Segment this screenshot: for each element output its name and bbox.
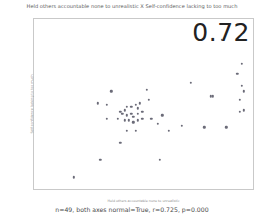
statistics-caption: n=49, both axes normal=True, r=0.725, p=…: [0, 205, 264, 214]
correlation-annotation: 0.72: [192, 20, 250, 45]
scatter-point: [141, 111, 143, 113]
x-axis-tick-mark: [67, 18, 68, 19]
scatter-point: [130, 106, 132, 108]
scatter-point: [146, 88, 148, 90]
scatter-point: [159, 159, 161, 161]
scatter-point: [161, 114, 163, 116]
scatter-point: [141, 118, 143, 120]
scatter-point: [137, 107, 139, 109]
scatter-point: [132, 116, 134, 118]
scatter-point: [126, 114, 128, 116]
scatter-point: [243, 90, 245, 92]
x-axis-label: Held others accountable none to unrealis…: [33, 199, 254, 203]
scatter-point: [181, 124, 183, 126]
y-axis-tick-mark: [33, 27, 34, 28]
scatter-point: [137, 112, 139, 114]
plot-area: 2040608010020406080100 0.72: [33, 18, 254, 190]
scatter-chart-figure: Held others accountable none to unrealis…: [0, 0, 264, 218]
chart-title: Held others accountable none to unrealis…: [0, 3, 264, 10]
scatter-point: [123, 119, 125, 121]
scatter-point: [117, 118, 119, 120]
scatter-point: [238, 111, 240, 113]
scatter-point: [168, 130, 170, 132]
scatter-point: [139, 102, 141, 104]
scatter-point: [110, 90, 112, 92]
scatter-point: [241, 63, 243, 65]
scatter-point: [241, 85, 243, 87]
scatter-point: [148, 99, 150, 101]
scatter-point: [243, 109, 245, 111]
scatter-point: [137, 119, 139, 121]
scatter-point: [119, 142, 121, 144]
scatter-point: [106, 104, 108, 106]
scatter-point: [212, 95, 214, 97]
scatter-point: [121, 112, 123, 114]
scatter-point: [99, 159, 101, 161]
scatter-point: [236, 73, 238, 75]
scatter-point: [123, 109, 125, 111]
scatter-point: [126, 130, 128, 132]
scatter-point: [97, 102, 99, 104]
scatter-point: [132, 121, 134, 123]
scatter-point: [150, 118, 152, 120]
scatter-point: [106, 118, 108, 120]
y-axis-tick-mark: [33, 62, 34, 63]
scatter-point: [190, 81, 192, 83]
y-axis-tick-mark: [33, 165, 34, 166]
scatter-point: [126, 106, 128, 108]
scatter-point: [238, 99, 240, 101]
scatter-point: [134, 104, 136, 106]
scatter-point: [134, 130, 136, 132]
scatter-point: [157, 123, 159, 125]
x-axis-tick-mark: [111, 18, 112, 19]
scatter-point: [130, 112, 132, 114]
scatter-point: [73, 176, 75, 178]
scatter-point: [225, 126, 227, 128]
y-axis-label: Self-confidence lacking to too much: [30, 74, 34, 133]
scatter-point: [128, 119, 130, 121]
scatter-point: [203, 126, 205, 128]
x-axis-tick-mark: [155, 18, 156, 19]
